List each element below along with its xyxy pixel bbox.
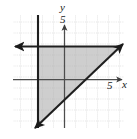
y-axis-tick-label-5: 5 xyxy=(60,14,66,25)
graph-figure: y 5 5 x xyxy=(0,0,137,139)
y-axis-label: y xyxy=(60,2,65,13)
coordinate-plane-svg xyxy=(0,0,137,139)
x-axis-tick-label-5: 5 xyxy=(107,80,113,91)
x-axis-label: x xyxy=(122,79,127,90)
